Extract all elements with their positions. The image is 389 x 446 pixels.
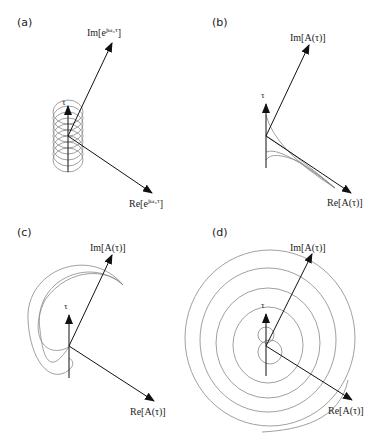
panel-c-label: (c) [17,226,32,239]
panel-d-im-label: Im[A(τ)] [290,242,326,253]
panel-a-im-label: Im[ejω₀τ] [87,26,121,38]
panel-c-curve [28,265,123,374]
panel-b-axes [266,45,351,193]
panel-d-label: (d) [212,226,228,239]
panel-a-tau-label: τ [62,97,66,107]
panel-a-re-label: Re[ejω₀τ] [129,197,163,209]
panel-c-tau-label: τ [64,301,68,311]
panel-a-label: (a) [17,16,32,29]
panel-b-tau-label: τ [261,90,265,100]
panel-d-tau-label: τ [261,300,265,310]
panel-b-im-label: Im[A(τ)] [290,32,326,43]
panel-d-axes [266,254,352,400]
panel-b-curve [266,115,335,188]
panel-b-re-label: Re[A(τ)] [327,197,363,208]
panel-c-re-label: Re[A(τ)] [130,406,166,417]
panel-b-label: (b) [212,16,228,29]
panel-c-im-label: Im[A(τ)] [90,242,126,253]
panel-d-re-label: Re[A(τ)] [328,405,364,416]
figure-canvas [0,0,389,446]
